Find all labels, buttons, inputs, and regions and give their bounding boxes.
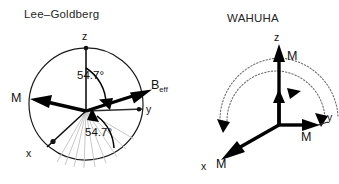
- vector-b-eff: [86, 90, 152, 112]
- vector-label-m-y: M: [301, 131, 311, 144]
- trajectory-arc-inner: [227, 71, 325, 121]
- axis-label-z: z: [274, 32, 279, 43]
- axis-label-z: z: [82, 31, 87, 42]
- trajectory-arrowhead-outer-left: [217, 119, 230, 133]
- axis-z-node-dot: [84, 46, 89, 51]
- angle-label-tilt-from-z: 54.7°: [77, 70, 104, 82]
- axis-x-node-dot: [50, 139, 55, 144]
- axis-label-y: y: [146, 104, 151, 115]
- panel-lee-goldberg: Lee–Goldberg: [0, 0, 175, 184]
- wahuha-drawing: [175, 0, 339, 184]
- wahuha-svg: [175, 0, 339, 184]
- vector-label-m-x: M: [216, 158, 226, 171]
- angle-label-tilt-from-plane: 54.7°: [85, 127, 112, 139]
- vector-label-b-eff-subscript: eff: [159, 85, 168, 94]
- panel-wahuha: WAHUHA: [175, 0, 339, 184]
- figure-canvas: Lee–Goldberg: [0, 0, 339, 184]
- axis-label-y: y: [327, 112, 332, 123]
- axis-x: [221, 125, 279, 160]
- axis-label-x: x: [201, 161, 206, 172]
- axis-y-node-dot: [137, 107, 142, 112]
- vector-label-m: M: [11, 92, 21, 105]
- axis-label-x: x: [26, 148, 31, 159]
- vector-label-m-z: M: [287, 50, 297, 63]
- vector-m-inner-z: [273, 89, 285, 125]
- vector-magnetization: [30, 95, 86, 111]
- vector-label-b-eff: Beff: [151, 79, 168, 92]
- trajectory-arrowhead-inner-top: [287, 88, 301, 99]
